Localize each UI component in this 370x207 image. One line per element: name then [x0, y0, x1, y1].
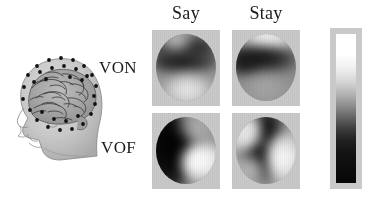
topography-panel-von-say [152, 30, 220, 106]
scalp-map-vof-say [156, 117, 216, 184]
scalp-map-vof-stay [236, 117, 296, 184]
column-title-say: Say [152, 3, 220, 24]
topography-panel-vof-stay [232, 113, 300, 189]
row-label-von: VON [99, 58, 137, 78]
amplitude-scale-colorbar [336, 34, 356, 183]
column-title-stay: Stay [232, 3, 300, 24]
erp-topography-figure: Say Stay VON VOF [0, 0, 370, 207]
scalp-map-von-stay [236, 34, 296, 101]
scalp-map-von-say [156, 34, 216, 101]
topography-panel-von-stay [232, 30, 300, 106]
topography-panel-vof-say [152, 113, 220, 189]
colorbar-panel [330, 28, 362, 189]
head-with-electrodes-illustration [4, 48, 108, 166]
row-label-vof: VOF [101, 138, 136, 158]
